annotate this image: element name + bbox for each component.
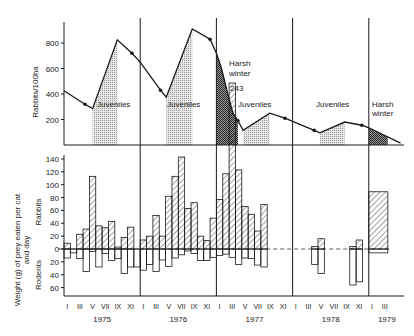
rodent-bar <box>229 249 235 257</box>
top-y-tick-label: 400 <box>46 90 60 99</box>
rodent-bar <box>210 249 216 257</box>
rodent-y-tick-label: 40 <box>50 271 59 280</box>
rabbit-bar <box>356 240 362 249</box>
rodent-bar <box>318 249 324 273</box>
rodent-bar <box>261 249 267 267</box>
rodent-bar <box>64 249 70 258</box>
juveniles-label: Juveniles <box>97 100 130 109</box>
month-label: I <box>371 303 373 310</box>
rodent-bar <box>178 249 184 255</box>
rabbit-y-tick-label: 40 <box>50 219 59 228</box>
rodent-bar <box>172 249 178 258</box>
rabbit-bar <box>96 226 102 249</box>
month-label: IX <box>343 303 350 310</box>
rabbit-bar <box>197 236 203 249</box>
year-label: 1977 <box>246 315 264 324</box>
month-label: I <box>219 303 221 310</box>
rodent-bar <box>83 249 89 272</box>
month-label: I <box>66 303 68 310</box>
rabbit-bar <box>191 203 197 249</box>
harsh-winter-label: Harsh <box>229 59 250 68</box>
rabbit-bar <box>83 229 89 249</box>
rabbit-bar <box>159 236 165 249</box>
data-point <box>130 51 134 55</box>
rabbit-bar <box>255 231 261 249</box>
rodent-bar <box>153 249 159 272</box>
rabbit-bar <box>89 176 95 249</box>
month-label: V <box>243 303 248 310</box>
month-label: III <box>229 303 235 310</box>
month-label: III <box>306 303 312 310</box>
rabbit-bar <box>204 241 210 249</box>
rodent-bar <box>356 249 362 282</box>
rodent-bar <box>147 249 153 264</box>
rabbit-y-tick-label: 80 <box>50 194 59 203</box>
rabbit-y-tick-label: 140 <box>46 155 60 164</box>
month-label: IX <box>267 303 274 310</box>
rabbit-bar <box>185 208 191 249</box>
juveniles-region <box>93 40 118 145</box>
rodent-bar <box>216 249 222 255</box>
month-label: XI <box>280 303 287 310</box>
rabbit-y-tick-label: 0 <box>55 245 60 254</box>
rodent-bar <box>350 249 356 285</box>
rodent-y-tick-label: 20 <box>50 258 59 267</box>
rodent-bar <box>115 249 121 259</box>
data-point <box>312 129 316 133</box>
rabbit-bar <box>369 192 388 249</box>
top-y-tick-label: 600 <box>46 65 60 74</box>
rabbit-y-tick-label: 60 <box>50 206 59 215</box>
harsh-winter-label: winter <box>228 69 251 78</box>
rabbit-bar <box>248 214 254 249</box>
rabbit-bar <box>121 237 127 249</box>
month-label: IX <box>191 303 198 310</box>
juveniles-region <box>320 122 345 145</box>
rabbit-bar <box>64 243 70 249</box>
rabbit-bar <box>210 218 216 249</box>
year-label: 1979 <box>378 315 396 324</box>
month-label: III <box>382 303 388 310</box>
rodent-bar <box>248 249 254 259</box>
rodents-axis-label: Rodents <box>34 260 43 290</box>
juveniles-label: Juveniles <box>316 100 349 109</box>
rodent-bar <box>108 249 114 261</box>
rabbit-bar <box>235 170 241 249</box>
rabbit-bar <box>77 234 83 249</box>
top-y-tick-label: 800 <box>46 39 60 48</box>
month-label: V <box>166 303 171 310</box>
rodent-bar <box>140 249 146 270</box>
harsh-winter-label: winter <box>371 109 394 118</box>
data-point <box>236 119 240 123</box>
rodent-bar <box>166 249 172 266</box>
rodent-bar <box>204 249 210 261</box>
rabbit-bar <box>108 221 114 249</box>
month-label: VII <box>253 303 262 310</box>
data-point <box>83 102 87 106</box>
rabbit-bar <box>178 157 184 249</box>
rodent-bar <box>191 249 197 254</box>
harsh-winter-region <box>369 128 388 145</box>
rodent-bar <box>159 249 165 260</box>
month-label: XI <box>127 303 134 310</box>
rabbit-bar <box>242 207 248 249</box>
month-label: VII <box>177 303 186 310</box>
juveniles-region <box>243 113 270 145</box>
rodent-bar <box>223 249 229 254</box>
month-label: V <box>90 303 95 310</box>
rabbit-prey-chart: 200400600800020406080100120140204060IIII… <box>0 0 414 336</box>
rabbit-bar <box>147 236 153 249</box>
rabbit-bar <box>153 216 159 249</box>
rabbits-axis-label: Rabbits <box>34 198 43 225</box>
month-label: III <box>77 303 83 310</box>
year-label: 1976 <box>169 315 187 324</box>
overflow-value-label: 243 <box>230 84 244 93</box>
bottom-y-axis-label: and day <box>22 236 31 264</box>
month-label: V <box>319 303 324 310</box>
rabbit-bar <box>223 174 229 249</box>
rabbit-bar <box>229 83 235 249</box>
rabbit-bar <box>172 176 178 249</box>
rodent-bar <box>369 249 388 253</box>
year-label: 1978 <box>322 315 340 324</box>
rabbit-bar <box>166 196 172 249</box>
month-label: I <box>142 303 144 310</box>
